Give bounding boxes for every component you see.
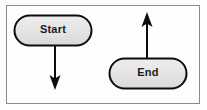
node-end-label: End [112,67,184,78]
flowchart-graphics [0,0,207,110]
arrow-down-from-start [50,45,61,90]
node-start-label: Start [17,24,89,35]
arrow-up-into-end [142,12,153,59]
diagram-canvas: Start End [0,0,207,110]
